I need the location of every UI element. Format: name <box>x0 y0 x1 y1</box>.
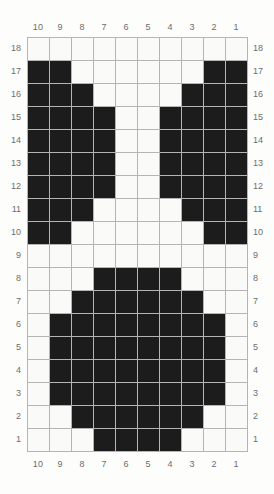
grid-cell-filled[interactable] <box>94 314 116 337</box>
grid-cell-filled[interactable] <box>94 429 116 452</box>
grid-cell-filled[interactable] <box>204 130 226 153</box>
grid-cell-empty[interactable] <box>138 38 160 61</box>
grid-cell-filled[interactable] <box>28 107 50 130</box>
grid-cell-empty[interactable] <box>94 222 116 245</box>
grid-cell-filled[interactable] <box>160 176 182 199</box>
grid-cell-filled[interactable] <box>226 176 248 199</box>
grid-cell-empty[interactable] <box>160 199 182 222</box>
grid-cell-filled[interactable] <box>116 383 138 406</box>
grid-cell-empty[interactable] <box>72 429 94 452</box>
grid-cell-filled[interactable] <box>94 176 116 199</box>
grid-cell-empty[interactable] <box>160 222 182 245</box>
grid-cell-filled[interactable] <box>204 222 226 245</box>
grid-cell-empty[interactable] <box>226 245 248 268</box>
grid-cell-filled[interactable] <box>116 360 138 383</box>
grid-cell-filled[interactable] <box>182 84 204 107</box>
grid-cell-empty[interactable] <box>28 314 50 337</box>
grid-cell-filled[interactable] <box>116 337 138 360</box>
grid-cell-filled[interactable] <box>182 337 204 360</box>
grid-cell-empty[interactable] <box>28 337 50 360</box>
grid-cell-empty[interactable] <box>138 61 160 84</box>
grid-cell-filled[interactable] <box>72 130 94 153</box>
grid-cell-empty[interactable] <box>72 222 94 245</box>
grid-cell-filled[interactable] <box>28 222 50 245</box>
grid-cell-filled[interactable] <box>204 199 226 222</box>
grid-cell-filled[interactable] <box>72 314 94 337</box>
grid-cell-empty[interactable] <box>28 291 50 314</box>
grid-cell-empty[interactable] <box>72 245 94 268</box>
grid-cell-filled[interactable] <box>94 107 116 130</box>
grid-cell-empty[interactable] <box>50 38 72 61</box>
grid-cell-filled[interactable] <box>182 314 204 337</box>
grid-cell-filled[interactable] <box>182 176 204 199</box>
grid-cell-filled[interactable] <box>204 383 226 406</box>
grid-cell-empty[interactable] <box>94 245 116 268</box>
grid-cell-filled[interactable] <box>160 153 182 176</box>
grid-cell-filled[interactable] <box>160 406 182 429</box>
grid-cell-empty[interactable] <box>28 429 50 452</box>
grid-cell-filled[interactable] <box>50 153 72 176</box>
grid-cell-filled[interactable] <box>160 291 182 314</box>
grid-cell-filled[interactable] <box>50 337 72 360</box>
grid-cell-empty[interactable] <box>72 61 94 84</box>
grid-cell-filled[interactable] <box>160 383 182 406</box>
grid-cell-empty[interactable] <box>226 337 248 360</box>
grid-cell-filled[interactable] <box>182 360 204 383</box>
grid-cell-filled[interactable] <box>138 429 160 452</box>
grid-cell-filled[interactable] <box>204 314 226 337</box>
grid-cell-empty[interactable] <box>138 199 160 222</box>
grid-cell-empty[interactable] <box>50 268 72 291</box>
grid-cell-filled[interactable] <box>182 406 204 429</box>
grid-cell-filled[interactable] <box>138 337 160 360</box>
grid-cell-empty[interactable] <box>182 245 204 268</box>
grid-cell-empty[interactable] <box>116 61 138 84</box>
grid-cell-empty[interactable] <box>28 245 50 268</box>
grid-cell-empty[interactable] <box>204 245 226 268</box>
grid-cell-filled[interactable] <box>182 153 204 176</box>
grid-cell-empty[interactable] <box>94 84 116 107</box>
grid-cell-empty[interactable] <box>226 383 248 406</box>
grid-cell-empty[interactable] <box>226 291 248 314</box>
grid-cell-empty[interactable] <box>182 429 204 452</box>
grid-cell-filled[interactable] <box>50 222 72 245</box>
grid-cell-filled[interactable] <box>50 176 72 199</box>
grid-cell-filled[interactable] <box>226 222 248 245</box>
grid-cell-empty[interactable] <box>204 429 226 452</box>
grid-cell-filled[interactable] <box>72 153 94 176</box>
grid-cell-empty[interactable] <box>94 61 116 84</box>
grid-cell-empty[interactable] <box>28 383 50 406</box>
grid-cell-empty[interactable] <box>28 360 50 383</box>
grid-cell-empty[interactable] <box>204 38 226 61</box>
grid-cell-empty[interactable] <box>226 406 248 429</box>
grid-cell-filled[interactable] <box>72 199 94 222</box>
grid-cell-empty[interactable] <box>50 291 72 314</box>
grid-cell-filled[interactable] <box>50 360 72 383</box>
grid-cell-empty[interactable] <box>116 107 138 130</box>
grid-cell-filled[interactable] <box>226 153 248 176</box>
grid-cell-filled[interactable] <box>28 130 50 153</box>
grid-cell-empty[interactable] <box>94 38 116 61</box>
grid-cell-filled[interactable] <box>72 291 94 314</box>
grid-cell-filled[interactable] <box>226 84 248 107</box>
grid-cell-filled[interactable] <box>182 291 204 314</box>
grid-cell-empty[interactable] <box>28 268 50 291</box>
grid-cell-empty[interactable] <box>182 38 204 61</box>
grid-cell-empty[interactable] <box>28 406 50 429</box>
grid-cell-empty[interactable] <box>138 222 160 245</box>
grid-cell-filled[interactable] <box>160 337 182 360</box>
grid-cell-filled[interactable] <box>182 383 204 406</box>
grid-cell-empty[interactable] <box>50 429 72 452</box>
grid-cell-empty[interactable] <box>138 245 160 268</box>
grid-cell-filled[interactable] <box>160 314 182 337</box>
grid-cell-filled[interactable] <box>182 199 204 222</box>
grid-cell-empty[interactable] <box>116 153 138 176</box>
grid-cell-filled[interactable] <box>94 291 116 314</box>
grid-cell-filled[interactable] <box>28 199 50 222</box>
grid-cell-filled[interactable] <box>50 199 72 222</box>
grid-cell-empty[interactable] <box>160 84 182 107</box>
grid-cell-empty[interactable] <box>204 291 226 314</box>
grid-cell-filled[interactable] <box>50 84 72 107</box>
grid-cell-empty[interactable] <box>138 176 160 199</box>
grid-cell-filled[interactable] <box>182 130 204 153</box>
grid-cell-empty[interactable] <box>116 84 138 107</box>
